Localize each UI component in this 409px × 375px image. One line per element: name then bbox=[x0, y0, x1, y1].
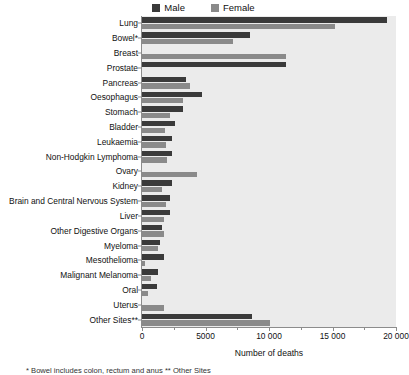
legend-label: Male bbox=[164, 3, 185, 13]
bar-row: Non-Hodgkin Lymphoma bbox=[0, 149, 396, 164]
x-axis-tick-label: 0 bbox=[140, 331, 145, 341]
bar-row: Uterus bbox=[0, 297, 396, 312]
bar-row: Liver bbox=[0, 209, 396, 224]
bar-male bbox=[142, 195, 170, 200]
bar-group bbox=[142, 134, 396, 149]
bar-male bbox=[142, 210, 170, 215]
category-label: Stomach bbox=[105, 108, 138, 117]
bar-group bbox=[142, 312, 396, 327]
bar-rows: LungBowel*BreastProstatePancreasOesophag… bbox=[0, 16, 396, 327]
bar-group bbox=[142, 179, 396, 194]
x-axis-tick-label: 15 000 bbox=[320, 331, 346, 341]
category-label: Oral bbox=[122, 285, 138, 294]
category-label: Uterus bbox=[113, 300, 138, 309]
bar-row: Stomach bbox=[0, 105, 396, 120]
bar-group bbox=[142, 149, 396, 164]
bar-group bbox=[142, 209, 396, 224]
bar-group bbox=[142, 90, 396, 105]
bar-female bbox=[142, 83, 190, 88]
bar-male bbox=[142, 77, 186, 82]
category-label: Bladder bbox=[109, 123, 138, 132]
bar-female bbox=[142, 246, 158, 251]
bar-male bbox=[142, 180, 172, 185]
bar-group bbox=[142, 268, 396, 283]
bar-row: Other Sites** bbox=[0, 312, 396, 327]
bar-group bbox=[142, 223, 396, 238]
chart-footnote: * Bowel includes colon, rectum and anus … bbox=[26, 366, 211, 375]
bar-female bbox=[142, 217, 164, 222]
bar-female bbox=[142, 128, 165, 133]
legend-entry-female: Female bbox=[211, 3, 255, 13]
bar-male bbox=[142, 106, 183, 111]
category-label: Prostate bbox=[107, 63, 138, 72]
bar-group bbox=[142, 46, 396, 61]
category-label: Mesothelioma bbox=[86, 256, 138, 265]
bar-row: Leukaemia bbox=[0, 134, 396, 149]
legend-swatch-female bbox=[211, 4, 219, 12]
bar-male bbox=[142, 225, 162, 230]
bar-female bbox=[142, 187, 162, 192]
bar-group bbox=[142, 75, 396, 90]
legend-entry-male: Male bbox=[152, 3, 185, 13]
bar-female bbox=[142, 157, 167, 162]
bar-male bbox=[142, 284, 157, 289]
category-label: Other Digestive Organs bbox=[50, 226, 138, 235]
bar-female bbox=[142, 24, 335, 29]
bar-group bbox=[142, 283, 396, 298]
bar-row: Pancreas bbox=[0, 75, 396, 90]
category-label: Bowel* bbox=[112, 34, 138, 43]
bar-female bbox=[142, 113, 170, 118]
bar-male bbox=[142, 254, 164, 259]
category-label: Brain and Central Nervous System bbox=[9, 197, 138, 206]
bar-male bbox=[142, 151, 172, 156]
bar-row: Myeloma bbox=[0, 238, 396, 253]
bar-group bbox=[142, 238, 396, 253]
bar-row: Bladder bbox=[0, 120, 396, 135]
x-axis-minor-tick bbox=[237, 327, 238, 330]
chart-legend: MaleFemale bbox=[0, 0, 407, 16]
bar-group bbox=[142, 105, 396, 120]
bar-female bbox=[142, 305, 164, 310]
bar-row: Kidney bbox=[0, 179, 396, 194]
bar-row: Malignant Melanoma bbox=[0, 268, 396, 283]
bar-female bbox=[142, 291, 148, 296]
bar-female bbox=[142, 172, 197, 177]
bar-female bbox=[142, 202, 166, 207]
bar-group bbox=[142, 194, 396, 209]
x-axis-tick-label: 20 000 bbox=[383, 331, 409, 341]
bar-male bbox=[142, 92, 202, 97]
x-axis-minor-tick bbox=[301, 327, 302, 330]
legend-label: Female bbox=[223, 3, 255, 13]
bar-female bbox=[142, 98, 183, 103]
bar-row: Brain and Central Nervous System bbox=[0, 194, 396, 209]
category-label: Liver bbox=[120, 211, 138, 220]
bar-male bbox=[142, 32, 250, 37]
bar-female bbox=[142, 231, 164, 236]
bar-male bbox=[142, 136, 172, 141]
category-label: Leukaemia bbox=[97, 137, 138, 146]
bar-group bbox=[142, 60, 396, 75]
category-label: Myeloma bbox=[104, 241, 138, 250]
x-axis-title: Number of deaths bbox=[142, 348, 396, 358]
bar-female bbox=[142, 39, 233, 44]
bar-male bbox=[142, 269, 158, 274]
bar-male bbox=[142, 121, 175, 126]
bar-male bbox=[142, 17, 387, 22]
bar-group bbox=[142, 164, 396, 179]
bar-group bbox=[142, 253, 396, 268]
bar-row: Oesophagus bbox=[0, 90, 396, 105]
x-axis-tick-label: 10 000 bbox=[256, 331, 282, 341]
bar-row: Other Digestive Organs bbox=[0, 223, 396, 238]
category-label: Malignant Melanoma bbox=[60, 271, 138, 280]
bar-row: Lung bbox=[0, 16, 396, 31]
bar-female bbox=[142, 276, 151, 281]
bar-female bbox=[142, 142, 166, 147]
category-label: Ovary bbox=[116, 167, 138, 176]
bar-row: Bowel* bbox=[0, 31, 396, 46]
bar-row: Mesothelioma bbox=[0, 253, 396, 268]
category-label: Breast bbox=[114, 49, 138, 58]
bar-group bbox=[142, 120, 396, 135]
category-label: Lung bbox=[119, 19, 138, 28]
category-label: Pancreas bbox=[103, 78, 138, 87]
